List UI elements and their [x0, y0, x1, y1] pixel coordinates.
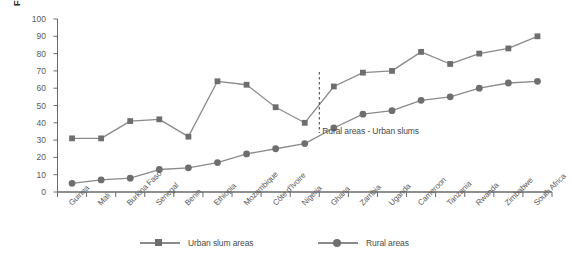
data-point-marker — [98, 135, 104, 141]
data-point-marker — [243, 151, 250, 158]
circle-marker-icon — [333, 239, 341, 247]
data-point-marker — [476, 85, 483, 92]
data-point-marker — [447, 61, 453, 67]
data-point-marker — [156, 116, 162, 122]
data-point-marker — [302, 120, 308, 126]
data-point-marker — [447, 93, 454, 100]
data-point-marker — [214, 159, 221, 166]
data-point-marker — [389, 68, 395, 74]
data-point-marker — [272, 145, 279, 152]
data-point-marker — [331, 84, 337, 90]
data-point-marker — [98, 176, 105, 183]
data-point-marker — [127, 175, 134, 182]
legend-item-rural-areas: Rural areas — [318, 236, 409, 250]
data-point-marker — [418, 49, 424, 55]
data-point-marker — [505, 46, 511, 52]
data-point-marker — [418, 97, 425, 104]
chart-container: Female Literacy rates 010203040506070809… — [0, 0, 572, 263]
legend-label-urban: Urban slum areas — [188, 238, 253, 248]
data-point-marker — [186, 134, 192, 140]
data-point-marker — [535, 33, 541, 39]
data-point-marker — [69, 180, 76, 187]
data-point-marker — [534, 78, 541, 85]
data-point-marker — [244, 82, 250, 88]
annotation-label: Rural areas - Urban slums — [322, 126, 419, 136]
data-point-marker — [215, 78, 221, 84]
square-marker-icon — [155, 239, 162, 246]
data-point-marker — [273, 104, 279, 110]
legend-item-urban-slum-areas: Urban slum areas — [140, 236, 253, 250]
data-point-marker — [505, 80, 512, 87]
data-point-marker — [476, 51, 482, 57]
legend-label-rural: Rural areas — [366, 238, 409, 248]
chart-legend: Urban slum areas Rural areas — [0, 236, 572, 256]
legend-line-circle — [318, 242, 358, 244]
data-point-marker — [360, 111, 367, 118]
data-point-marker — [360, 70, 366, 76]
plot-area — [0, 0, 572, 263]
legend-line-square — [140, 242, 180, 244]
data-point-marker — [127, 118, 133, 124]
data-point-marker — [389, 107, 396, 114]
data-point-marker — [301, 140, 308, 147]
data-point-marker — [185, 164, 192, 171]
series-line-rural-areas — [72, 81, 537, 183]
data-point-marker — [69, 135, 75, 141]
